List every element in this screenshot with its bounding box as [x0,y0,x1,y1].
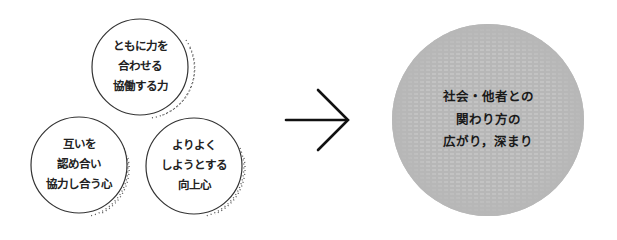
circle-bottom-left-label: 互いを 認め合い 協力し合う心 [29,134,129,194]
circle-bottom-right-label: よりよく しようとする 向上心 [144,135,244,195]
result-label: 社会・他者との 関わり方の 広がり，深まり [418,86,558,154]
right-arrow-icon [286,90,348,150]
circle-top-label: ともに力を 合わせる 協働する力 [90,36,190,96]
